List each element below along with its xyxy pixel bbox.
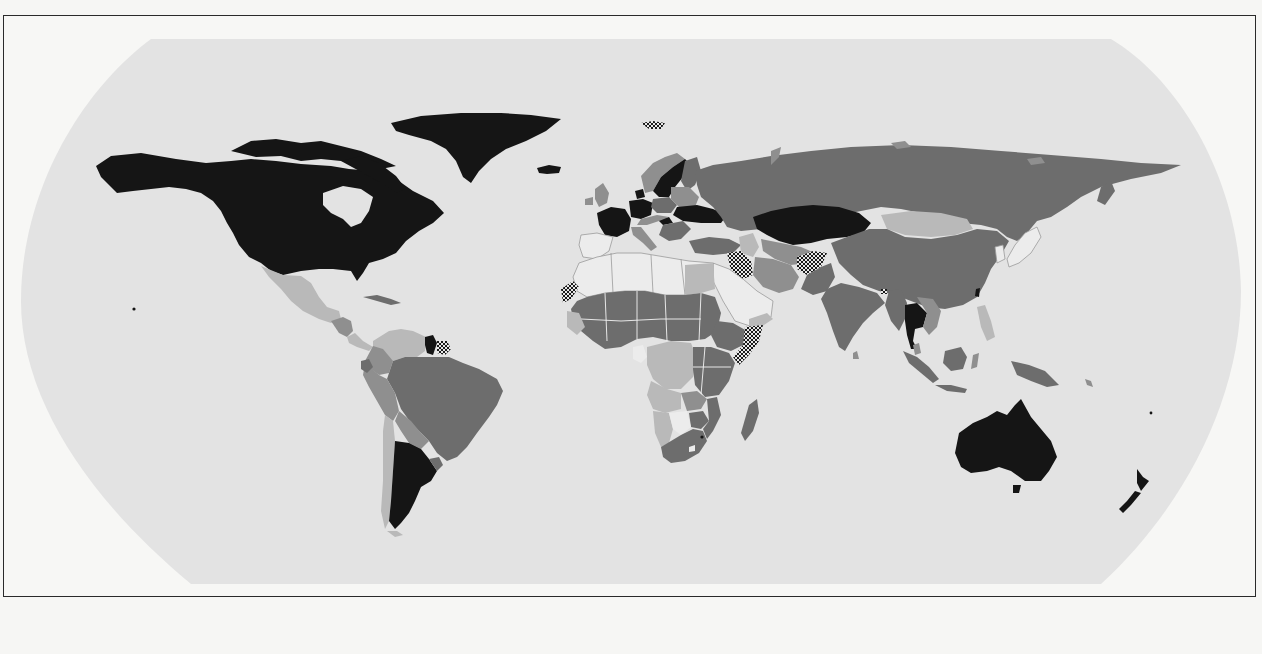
country-bhutan: [881, 289, 887, 294]
world-map: [4, 16, 1256, 597]
pacific-island: [1150, 412, 1153, 415]
hawaii: [132, 307, 135, 310]
map-frame: [3, 15, 1256, 597]
country-egypt: [685, 263, 715, 295]
country-swaziland: [700, 435, 703, 438]
